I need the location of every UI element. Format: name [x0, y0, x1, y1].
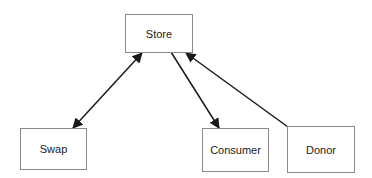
- node-swap: Swap: [20, 128, 87, 170]
- edge-donor-store: [186, 53, 288, 127]
- edge-store-consumer: [171, 52, 219, 128]
- node-donor: Donor: [287, 126, 355, 173]
- node-store-label: Store: [146, 28, 172, 40]
- edge-store-swap: [73, 53, 142, 128]
- node-donor-label: Donor: [306, 144, 336, 156]
- node-consumer: Consumer: [202, 128, 269, 172]
- node-consumer-label: Consumer: [210, 144, 261, 156]
- node-swap-label: Swap: [40, 143, 68, 155]
- node-store: Store: [125, 14, 193, 53]
